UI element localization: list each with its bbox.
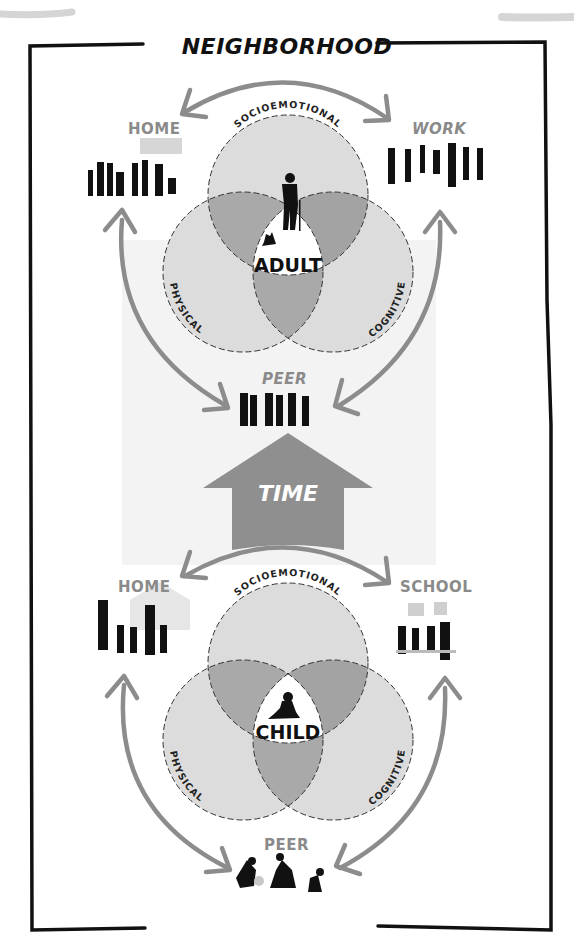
- child-peer-label: PEER: [264, 836, 309, 854]
- adult-peer-label: PEER: [262, 370, 307, 388]
- neighborhood-title: NEIGHBORHOOD: [0, 34, 574, 59]
- adult-center-label: ADULT: [238, 254, 338, 276]
- work-people-icon: [388, 143, 483, 187]
- diagram-canvas: SOCIOEMOTIONAL PHYSICAL COGNITIVE SOCIOE…: [0, 0, 574, 937]
- child-school-label: SCHOOL: [400, 578, 472, 596]
- decorative-stroke-right: [502, 17, 574, 18]
- adult-home-label: HOME: [128, 120, 180, 138]
- child-center-label: CHILD: [238, 721, 338, 743]
- decorative-stroke-left: [0, 12, 72, 15]
- time-label: TIME: [238, 481, 338, 506]
- peer-child-people-icon: [236, 853, 324, 892]
- adult-venn: SOCIOEMOTIONAL PHYSICAL COGNITIVE: [163, 99, 413, 352]
- child-home-label: HOME: [118, 578, 170, 596]
- home-adult-people-icon: [88, 138, 182, 196]
- adult-work-label: WORK: [412, 120, 466, 138]
- school-people-icon: [396, 602, 456, 660]
- child-venn: SOCIOEMOTIONAL PHYSICAL COGNITIVE: [163, 567, 413, 820]
